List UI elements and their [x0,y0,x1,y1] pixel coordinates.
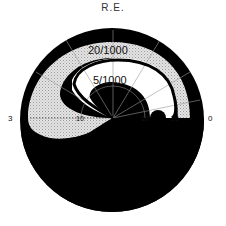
isopter-label-5-1000: 5/1000 [93,74,127,86]
scale-right-mid: 20 [171,115,179,122]
scale-right-outer: 0 [208,114,213,123]
scale-left-outer: 3 [8,114,13,123]
scale-right-inner: 10 [141,115,149,122]
scale-left-inner: 10 [76,115,84,122]
isopter-label-20-1000: 20/1000 [88,44,128,56]
blind-spot [150,110,166,126]
visual-field-chart: 20/1000 5/1000 3 10 10 20 0 [0,0,226,226]
